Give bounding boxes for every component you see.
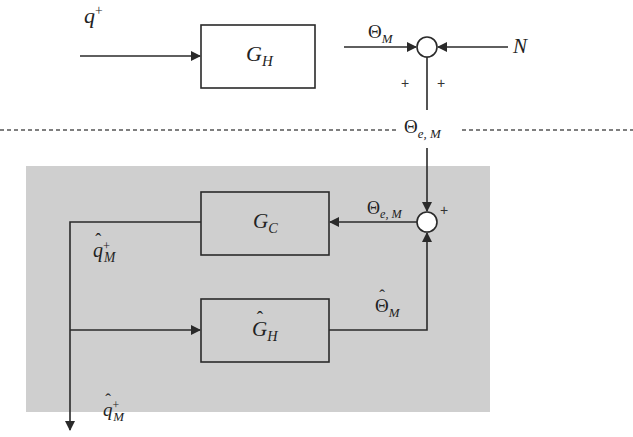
model-block-label: GH xyxy=(252,319,277,343)
input-symbol: q xyxy=(84,3,95,28)
estimate-feedback-label: q+M xyxy=(93,240,115,265)
error-top-symbol: Θ xyxy=(404,116,418,137)
noise-symbol: N xyxy=(513,34,527,58)
plant-output-sub: M xyxy=(382,31,393,46)
error-top-sub: e, M xyxy=(418,126,441,141)
top-junction-sign-right: + xyxy=(437,76,445,90)
inner-summing-junction xyxy=(417,212,437,232)
error-signal-top-label: Θe, M xyxy=(404,117,441,140)
block-diagram-canvas xyxy=(0,0,633,437)
noise-label: N xyxy=(513,36,527,57)
error-signal-inner-label: Θe, M xyxy=(367,199,402,221)
inner-junction-sign: + xyxy=(440,203,448,217)
error-inner-symbol: Θ xyxy=(367,198,380,218)
plant-output-symbol: Θ xyxy=(368,21,382,42)
controller-sub: C xyxy=(268,220,278,236)
model-output-symbol: Θ xyxy=(375,296,389,315)
plant-symbol: G xyxy=(246,41,262,66)
plant-block-label: GH xyxy=(246,43,273,69)
model-sub: H xyxy=(267,328,277,344)
top-junction-sign-left: + xyxy=(401,76,409,90)
controller-symbol: G xyxy=(253,209,268,233)
model-output-sub: M xyxy=(389,305,400,320)
model-symbol: G xyxy=(252,319,267,340)
estimate-output-sub: M xyxy=(113,409,124,424)
estimate-feedback-sub: M xyxy=(104,250,115,265)
error-inner-sub: e, M xyxy=(380,207,402,221)
estimate-output-label: q+M xyxy=(103,400,124,424)
plant-sub: H xyxy=(262,53,273,69)
top-summing-junction xyxy=(417,37,437,57)
estimate-output-symbol: q xyxy=(103,400,113,419)
input-sup: + xyxy=(95,3,103,18)
plant-output-label: ΘM xyxy=(368,22,393,45)
controller-block-label: GC xyxy=(253,211,278,235)
input-signal-label: q+ xyxy=(84,4,103,27)
estimate-feedback-symbol: q xyxy=(93,240,103,260)
model-output-label: ΘM xyxy=(375,296,400,319)
